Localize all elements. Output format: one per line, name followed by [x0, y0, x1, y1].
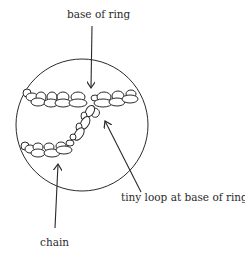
- base-of-ring-arrow: [91, 26, 92, 88]
- base-of-ring-label: base of ring: [67, 8, 130, 20]
- bottom-chain-row: [21, 140, 74, 157]
- vertical-chain: [70, 104, 96, 142]
- tiny-loop-arrow: [105, 121, 141, 192]
- tiny-loop-label: tiny loop at base of ring: [121, 191, 245, 203]
- diagram-canvas: [0, 0, 245, 256]
- chain-label: chain: [40, 236, 69, 248]
- top-chain-row: [23, 89, 138, 107]
- chain-arrow: [55, 164, 58, 228]
